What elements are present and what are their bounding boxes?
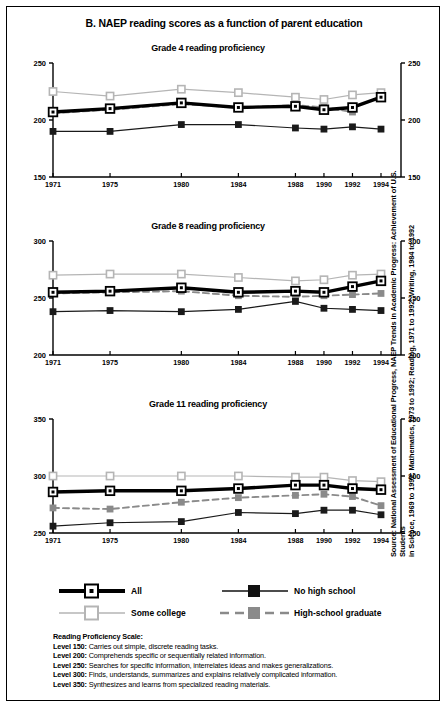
legend: All No high school Some college High-sch… <box>7 579 407 627</box>
series-high-school-graduate <box>50 491 385 513</box>
source-line-2: in Science, 1969 to 1992; Mathematics, 1… <box>407 157 416 557</box>
x-tick-label: 1971 <box>45 536 61 545</box>
note-item: Level 250: Searches for specific informa… <box>53 661 403 671</box>
chart-svg: 2002503002002503001971197519801984198819… <box>7 227 407 387</box>
note-text: Finds, understands, summarizes and expla… <box>89 670 338 679</box>
y-tick-label: 250 <box>408 59 421 68</box>
notes-heading: Reading Proficiency Scale: <box>53 632 403 642</box>
note-item: Level 350: Synthesizes and learns from s… <box>53 680 403 690</box>
x-tick-label: 1988 <box>287 358 303 367</box>
x-tick-label: 1971 <box>45 358 61 367</box>
y-tick-label: 300 <box>33 472 46 481</box>
note-level: Level 300: <box>53 670 87 679</box>
y-tick-label: 250 <box>33 59 46 68</box>
figure-page: B. NAEP reading scores as a function of … <box>0 0 446 707</box>
x-tick-label: 1984 <box>230 358 246 367</box>
plot-grade-4: 1502002501502002501971197519801984198819… <box>7 49 407 209</box>
y-tick-label: 200 <box>408 116 421 125</box>
note-item: Level 150: Carries out simple, discrete … <box>53 642 403 652</box>
x-tick-label: 1984 <box>230 536 246 545</box>
legend-swatch-some-college <box>59 607 125 620</box>
x-tick-label: 1990 <box>316 536 332 545</box>
series-no-high-school <box>50 507 385 530</box>
note-level: Level 200: <box>53 651 87 660</box>
note-level: Level 350: <box>53 680 87 689</box>
y-tick-label: 300 <box>33 237 46 246</box>
x-tick-label: 1990 <box>316 358 332 367</box>
note-level: Level 250: <box>53 661 87 670</box>
series-all <box>49 93 386 116</box>
series-all <box>49 481 386 496</box>
x-tick-label: 1980 <box>173 180 189 189</box>
legend-swatch-high-school-graduate <box>220 607 290 619</box>
plot-grade-11: 2503003502503003501971197519801984198819… <box>7 405 407 565</box>
x-tick-label: 1975 <box>102 358 118 367</box>
legend-label-no-high-school: No high school <box>294 586 355 596</box>
series-no-high-school <box>50 298 385 315</box>
note-level: Level 150: <box>53 642 87 651</box>
note-text: Synthesizes and learns from specialized … <box>89 680 271 689</box>
chart-svg: 2503003502503003501971197519801984198819… <box>7 405 407 565</box>
legend-swatch-all <box>59 585 125 598</box>
x-tick-label: 1992 <box>344 536 360 545</box>
source-line-1: Source: National Assessment of Education… <box>389 157 407 557</box>
x-tick-label: 1971 <box>45 180 61 189</box>
x-tick-label: 1984 <box>230 180 246 189</box>
y-tick-label: 200 <box>33 116 46 125</box>
figure-title: B. NAEP reading scores as a function of … <box>7 17 441 29</box>
note-text: Carries out simple, discrete reading tas… <box>89 642 218 651</box>
x-tick-label: 1988 <box>287 536 303 545</box>
note-text: Searches for specific information, inter… <box>89 661 333 670</box>
note-text: Comprehends specific or sequentially rel… <box>89 651 266 660</box>
x-tick-label: 1992 <box>344 180 360 189</box>
x-tick-label: 1980 <box>173 358 189 367</box>
plot-grade-8: 2002503002002503001971197519801984198819… <box>7 227 407 387</box>
series-no-high-school <box>50 121 385 135</box>
x-tick-label: 1994 <box>373 536 389 545</box>
x-tick-label: 1988 <box>287 180 303 189</box>
x-tick-label: 1994 <box>373 180 389 189</box>
reading-proficiency-scale: Reading Proficiency Scale: Level 150: Ca… <box>53 632 403 690</box>
chart-svg: 1502002501502002501971197519801984198819… <box>7 49 407 209</box>
series-some-college <box>49 472 384 485</box>
series-some-college <box>49 86 384 103</box>
figure-frame: B. NAEP reading scores as a function of … <box>6 6 440 701</box>
series-some-college <box>49 270 384 284</box>
legend-label-high-school-graduate: High-school graduate <box>294 608 381 618</box>
legend-label-all: All <box>131 586 142 596</box>
legend-label-some-college: Some college <box>131 608 186 618</box>
x-tick-label: 1990 <box>316 180 332 189</box>
note-item: Level 200: Comprehends specific or seque… <box>53 651 403 661</box>
y-tick-label: 250 <box>33 294 46 303</box>
y-tick-label: 350 <box>33 415 46 424</box>
note-item: Level 300: Finds, understands, summarize… <box>53 670 403 680</box>
x-tick-label: 1992 <box>344 358 360 367</box>
x-tick-label: 1994 <box>373 358 389 367</box>
x-tick-label: 1975 <box>102 536 118 545</box>
legend-swatch-no-high-school <box>222 585 288 597</box>
x-tick-label: 1980 <box>173 536 189 545</box>
source-note: Source: National Assessment of Education… <box>389 157 413 557</box>
x-tick-label: 1975 <box>102 180 118 189</box>
